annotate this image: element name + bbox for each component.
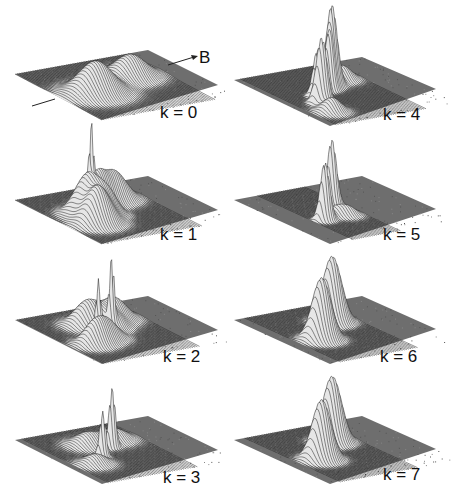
field-arrow-head-icon: [191, 55, 198, 60]
surface-panel-k6: k = 6: [234, 256, 445, 366]
axis-tick-line: [32, 99, 55, 106]
surface-panel-k5: k = 5: [234, 140, 442, 244]
surface-panel-k4: k = 4: [234, 6, 448, 126]
field-axis-label: B: [199, 48, 210, 67]
panel-label-k7: k = 7: [383, 465, 420, 484]
surface-panel-k3: k = 3: [15, 389, 221, 487]
surface-panel-k1: k = 1: [15, 123, 220, 244]
surface-panels: k = 0k = 1k = 2k = 3k = 4k = 5k = 6k = 7: [15, 6, 450, 487]
panel-label-k6: k = 6: [380, 347, 417, 366]
panel-label-k2: k = 2: [163, 347, 200, 366]
surface-panel-k0: k = 0: [15, 50, 225, 122]
figure-canvas: k = 0k = 1k = 2k = 3k = 4k = 5k = 6k = 7…: [0, 0, 452, 497]
panel-label-k4: k = 4: [383, 105, 420, 124]
surface-panel-k2: k = 2: [15, 260, 227, 366]
panel-label-k1: k = 1: [160, 225, 197, 244]
surface-panel-k7: k = 7: [234, 376, 450, 484]
panel-label-k0: k = 0: [160, 103, 197, 122]
panel-label-k3: k = 3: [163, 468, 200, 487]
panel-label-k5: k = 5: [383, 225, 420, 244]
field-arrow-shaft: [168, 57, 194, 65]
